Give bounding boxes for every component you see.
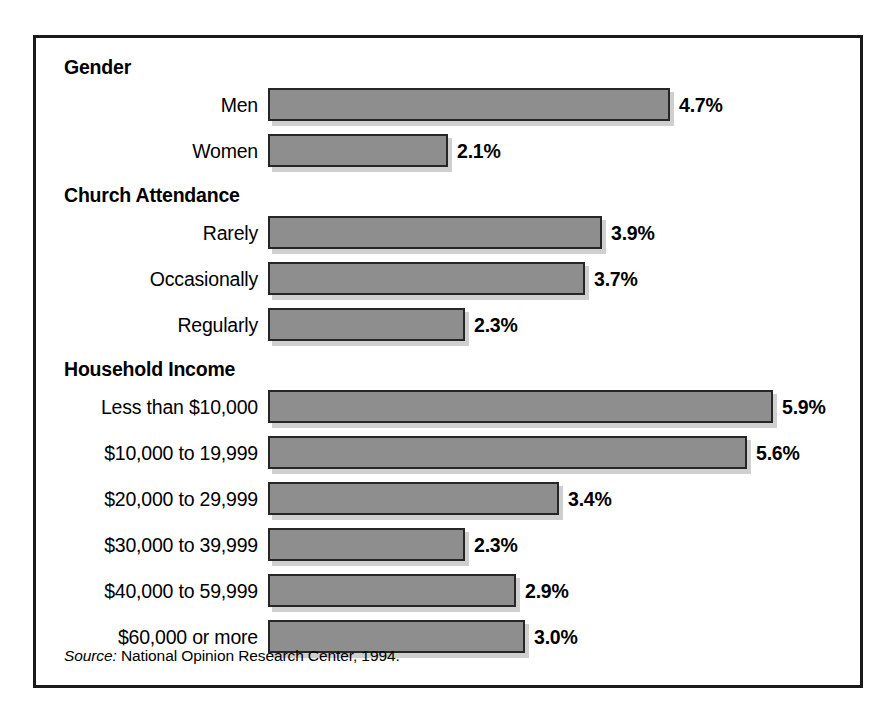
bar-row: Rarely3.9%: [36, 216, 860, 250]
bar-row: Men4.7%: [36, 88, 860, 122]
source-value: National Opinion Research Center, 1994.: [117, 647, 400, 664]
bar: [268, 262, 585, 295]
category-label: Regularly: [36, 308, 258, 342]
bar-row: $30,000 to 39,9992.3%: [36, 528, 860, 562]
category-label: Rarely: [36, 216, 258, 250]
bar-chart: GenderMen4.7%Women2.1%Church AttendanceR…: [36, 38, 860, 685]
category-label: Women: [36, 134, 258, 168]
group-heading-1: Church Attendance: [64, 186, 240, 206]
category-label: Men: [36, 88, 258, 122]
bar-value-label: 2.1%: [457, 134, 501, 168]
bar: [268, 216, 602, 249]
bar: [268, 308, 465, 341]
group-heading-0: Gender: [64, 58, 131, 78]
bar-value-label: 5.6%: [756, 436, 800, 470]
chart-frame: GenderMen4.7%Women2.1%Church AttendanceR…: [33, 35, 863, 688]
bar-value-label: 2.3%: [474, 528, 518, 562]
category-label: Less than $10,000: [36, 390, 258, 424]
source-label: Source:: [64, 647, 117, 664]
category-label: $20,000 to 29,999: [36, 482, 258, 516]
category-label: $40,000 to 59,999: [36, 574, 258, 608]
bar-value-label: 4.7%: [679, 88, 723, 122]
bar-row: $20,000 to 29,9993.4%: [36, 482, 860, 516]
bar-row: Women2.1%: [36, 134, 860, 168]
bar-value-label: 2.3%: [474, 308, 518, 342]
bar: [268, 134, 448, 167]
bar-row: Regularly2.3%: [36, 308, 860, 342]
category-label: Occasionally: [36, 262, 258, 296]
bar-value-label: 3.9%: [611, 216, 655, 250]
category-label: $10,000 to 19,999: [36, 436, 258, 470]
bar: [268, 436, 747, 469]
bar: [268, 88, 670, 121]
source-note: Source: National Opinion Research Center…: [64, 647, 400, 665]
bar-row: $10,000 to 19,9995.6%: [36, 436, 860, 470]
bar-row: Occasionally3.7%: [36, 262, 860, 296]
bar: [268, 528, 465, 561]
bar-value-label: 3.7%: [594, 262, 638, 296]
bar: [268, 574, 516, 607]
bar-value-label: 2.9%: [525, 574, 569, 608]
bar-row: $40,000 to 59,9992.9%: [36, 574, 860, 608]
bar-value-label: 3.0%: [534, 620, 578, 654]
bar-row: Less than $10,0005.9%: [36, 390, 860, 424]
bar-value-label: 5.9%: [782, 390, 826, 424]
bar: [268, 482, 559, 515]
bar-value-label: 3.4%: [568, 482, 612, 516]
bar: [268, 390, 773, 423]
category-label: $30,000 to 39,999: [36, 528, 258, 562]
group-heading-2: Household Income: [64, 360, 235, 380]
